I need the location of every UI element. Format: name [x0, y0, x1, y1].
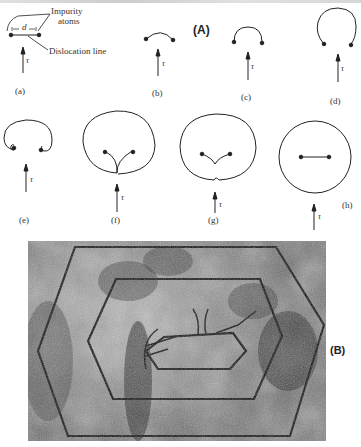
dislocation-line-label: Dislocation line	[49, 46, 106, 56]
stress-symbol-c: τ	[251, 62, 254, 71]
dislocation-loops-micrograph	[28, 241, 326, 441]
stage-label-a: (a)	[15, 86, 25, 96]
stress-symbol-h: τ	[318, 212, 321, 221]
stress-symbol-a: τ	[26, 56, 29, 65]
panel-b-label: (B)	[330, 344, 345, 356]
stage-label-b: (b)	[152, 88, 163, 98]
frank-read-diagram	[0, 0, 361, 240]
stress-symbol-e: τ	[30, 175, 33, 184]
stage-label-e: (e)	[19, 215, 29, 225]
stress-symbol-f: τ	[121, 193, 124, 202]
stress-symbol-g: τ	[219, 200, 222, 209]
panel-a-label: (A)	[193, 23, 210, 37]
stress-symbol-b: τ	[162, 59, 165, 68]
stage-label-f: (f)	[111, 215, 120, 225]
stage-label-g: (g)	[208, 215, 219, 225]
impurity-atoms-label: Impurity	[51, 6, 83, 16]
stage-label-c: (c)	[241, 92, 251, 102]
stage-label-h: (h)	[342, 200, 353, 210]
stage-label-d: (d)	[330, 96, 341, 106]
spacing-d-label: d	[22, 22, 27, 32]
stress-symbol-d: τ	[341, 64, 344, 73]
impurity-atoms-label-2: atoms	[58, 16, 80, 26]
